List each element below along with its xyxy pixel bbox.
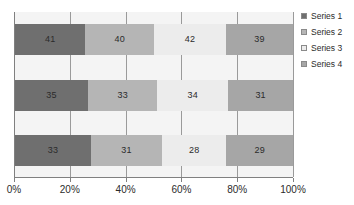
legend-item[interactable]: Series 3 <box>301 41 354 55</box>
bar-segment: 33 <box>15 135 91 166</box>
x-axis-tick <box>237 178 238 182</box>
x-axis-tick-label: 20% <box>60 184 80 195</box>
bar-segment-value-label: 31 <box>121 146 131 155</box>
x-axis-tick <box>181 178 182 182</box>
x-axis-tickmarks <box>14 178 293 182</box>
bar-segment-value-label: 39 <box>254 35 264 44</box>
legend-item[interactable]: Series 4 <box>301 57 354 71</box>
plot-area: 414042393533343133312829 <box>14 12 293 178</box>
x-axis-tick-label: 80% <box>227 184 247 195</box>
bar-segment-value-label: 40 <box>114 35 124 44</box>
bar-segment-value-label: 29 <box>254 146 264 155</box>
legend-swatch-icon <box>301 13 307 19</box>
legend-item-label: Series 4 <box>311 60 342 69</box>
bar-segment: 42 <box>154 24 226 55</box>
bar-segment: 34 <box>157 80 228 111</box>
bar-segment-value-label: 33 <box>48 146 58 155</box>
legend-swatch-icon <box>301 45 307 51</box>
legend-item-label: Series 2 <box>311 28 342 37</box>
legend-item[interactable]: Series 2 <box>301 25 354 39</box>
gridline-100pct <box>293 12 294 177</box>
x-axis-tick <box>126 178 127 182</box>
bar-segment: 40 <box>85 24 154 55</box>
bar-segment: 29 <box>226 135 293 166</box>
bar-segment-value-label: 41 <box>45 35 55 44</box>
stacked-bar-chart: 414042393533343133312829 0%20%40%60%80%1… <box>0 0 354 205</box>
legend-item-label: Series 3 <box>311 44 342 53</box>
bar-segment: 39 <box>226 24 293 55</box>
bar-segment: 31 <box>228 80 293 111</box>
bar-segment: 35 <box>15 80 88 111</box>
x-axis-tick-label: 60% <box>171 184 191 195</box>
x-axis-labels: 0%20%40%60%80%100% <box>0 184 354 200</box>
legend-swatch-icon <box>301 61 307 67</box>
x-axis-tick <box>70 178 71 182</box>
bar-segment: 31 <box>91 135 162 166</box>
bar-segment: 33 <box>88 80 157 111</box>
bar-series-container: 414042393533343133312829 <box>15 12 293 177</box>
bar-segment-value-label: 42 <box>185 35 195 44</box>
legend-item[interactable]: Series 1 <box>301 9 354 23</box>
bar-segment: 41 <box>15 24 85 55</box>
bar-segment-value-label: 28 <box>189 146 199 155</box>
bar-segment-value-label: 33 <box>117 91 127 100</box>
x-axis-tick-label: 0% <box>7 184 21 195</box>
bar-row: 41404239 <box>15 24 293 55</box>
x-axis-tick-label: 40% <box>116 184 136 195</box>
bar-segment: 28 <box>162 135 226 166</box>
legend-item-label: Series 1 <box>311 12 342 21</box>
bar-segment-value-label: 34 <box>187 91 197 100</box>
x-axis-tick <box>14 178 15 182</box>
bar-row: 33312829 <box>15 135 293 166</box>
x-axis-tick-label: 100% <box>280 184 306 195</box>
bar-segment-value-label: 35 <box>46 91 56 100</box>
chart-legend: Series 1Series 2Series 3Series 4 <box>301 9 354 73</box>
legend-swatch-icon <box>301 29 307 35</box>
x-axis-tick <box>293 178 294 182</box>
bar-row: 35333431 <box>15 80 293 111</box>
bar-segment-value-label: 31 <box>255 91 265 100</box>
